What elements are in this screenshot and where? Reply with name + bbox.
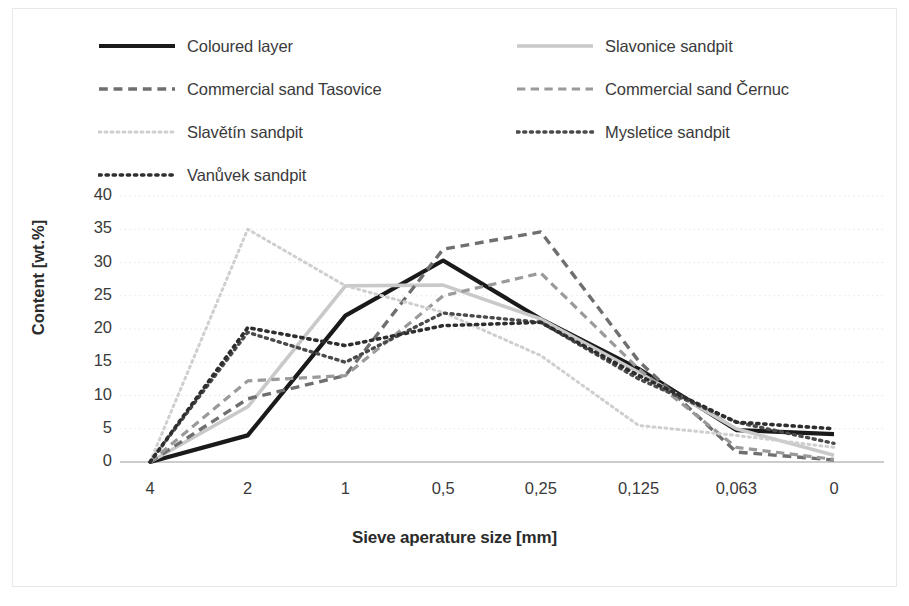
legend-label: Commercial sand Černuc: [605, 80, 789, 99]
chart-legend: Coloured layer Commercial sand Tasovice …: [98, 34, 858, 179]
y-tick-label: 0: [72, 451, 112, 470]
y-tick-label: 5: [72, 418, 112, 437]
legend-item-coloured-layer[interactable]: Coloured layer: [98, 34, 498, 58]
legend-item-mysletice-sandpit[interactable]: Mysletice sandpit: [516, 120, 856, 144]
legend-swatch-dotted-icon: [98, 125, 176, 139]
series-line-4: [150, 229, 834, 462]
series-line-1: [150, 285, 834, 462]
legend-item-vanuvek-sandpit[interactable]: Vanůvek sandpit: [98, 163, 498, 187]
y-tick-label: 40: [72, 185, 112, 204]
y-tick-label: 10: [72, 385, 112, 404]
y-tick-label: 25: [72, 285, 112, 304]
legend-swatch-solid-icon: [516, 39, 594, 53]
legend-item-slavetin-sandpit[interactable]: Slavětín sandpit: [98, 120, 498, 144]
figure-border-left: [12, 8, 13, 587]
x-axis-title: Sieve aperature size [mm]: [0, 528, 909, 548]
x-tick-label: 1: [341, 479, 350, 498]
x-tick-label: 0,125: [618, 479, 659, 498]
legend-label: Slavětín sandpit: [187, 123, 303, 142]
legend-label: Mysletice sandpit: [605, 123, 730, 142]
series-line-0: [150, 261, 834, 462]
figure-border-top: [12, 8, 897, 9]
x-tick-label: 0,5: [432, 479, 455, 498]
legend-item-slavonice-sandpit[interactable]: Slavonice sandpit: [516, 34, 856, 58]
y-tick-label: 35: [72, 218, 112, 237]
figure-border-right: [896, 8, 897, 587]
legend-swatch-dashed-icon: [516, 82, 594, 96]
gridlines: [120, 196, 884, 462]
legend-label: Coloured layer: [187, 37, 293, 56]
legend-swatch-dotted-icon: [516, 125, 594, 139]
y-axis-title: Content [wt.%]: [29, 198, 48, 358]
legend-item-commercial-sand-tasovice[interactable]: Commercial sand Tasovice: [98, 77, 498, 101]
legend-swatch-dotted-icon: [98, 168, 176, 182]
legend-label: Vanůvek sandpit: [187, 166, 306, 185]
data-series: [150, 229, 834, 462]
x-tick-label: 0,25: [525, 479, 557, 498]
y-tick-label: 20: [72, 318, 112, 337]
x-tick-label: 0: [829, 479, 838, 498]
x-tick-label: 4: [145, 479, 154, 498]
legend-label: Commercial sand Tasovice: [187, 80, 381, 99]
series-line-3: [150, 273, 834, 462]
legend-swatch-dashed-icon: [98, 82, 176, 96]
series-line-2: [150, 232, 834, 462]
legend-swatch-solid-icon: [98, 39, 176, 53]
y-tick-label: 30: [72, 252, 112, 271]
series-line-6: [150, 322, 834, 462]
legend-label: Slavonice sandpit: [605, 37, 733, 56]
x-tick-label: 0,063: [716, 479, 757, 498]
chart-figure: Coloured layer Commercial sand Tasovice …: [0, 0, 909, 606]
legend-item-commercial-sand-cernuc[interactable]: Commercial sand Černuc: [516, 77, 856, 101]
figure-border-bottom: [12, 586, 897, 587]
series-line-5: [150, 313, 834, 462]
x-tick-label: 2: [243, 479, 252, 498]
y-tick-label: 15: [72, 351, 112, 370]
